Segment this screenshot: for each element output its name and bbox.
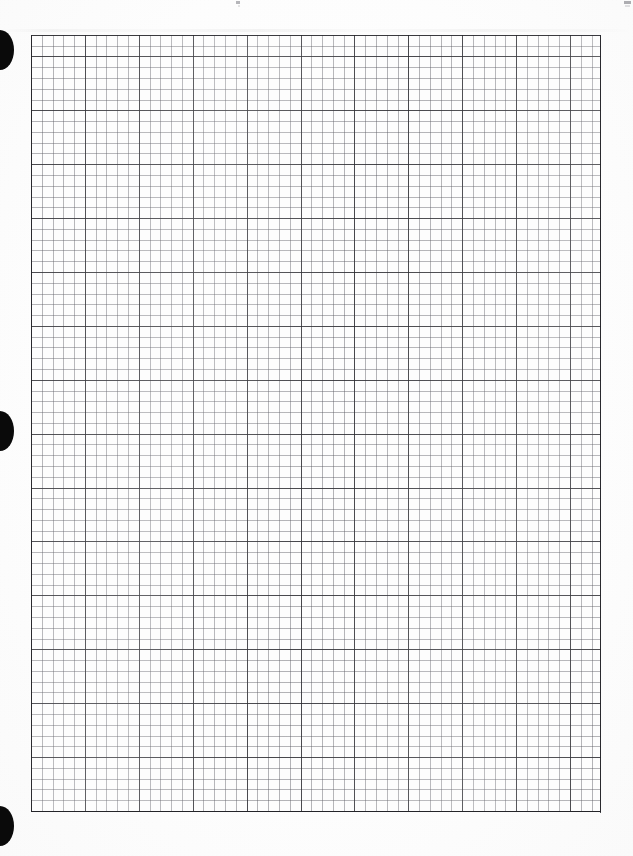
graph-paper-grid	[31, 35, 601, 812]
scanned-page	[0, 0, 633, 856]
